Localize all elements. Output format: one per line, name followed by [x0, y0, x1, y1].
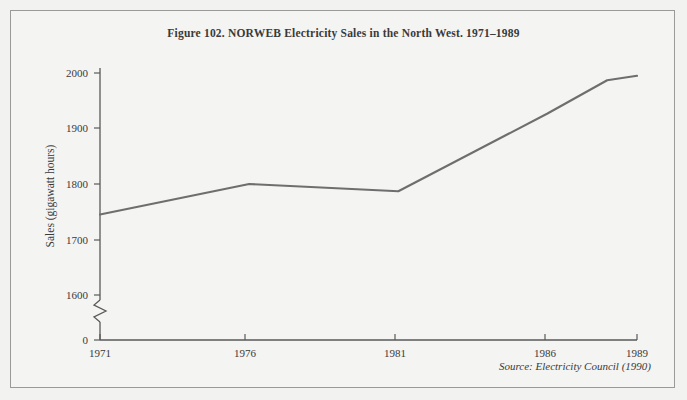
x-tick-label-1976: 1976	[234, 347, 257, 359]
x-tick-label-1986: 1986	[534, 347, 557, 359]
y-tick-label-1700: 1700	[66, 234, 89, 246]
y-tick-label-1800: 1800	[66, 178, 89, 190]
data-series-line	[100, 76, 637, 215]
figure-container: Figure 102. NORWEB Electricity Sales in …	[0, 0, 687, 400]
x-tick-label-1989: 1989	[626, 347, 649, 359]
line-chart-plot: 2000 1900 1800 1700 1600 0 1971 1976 198…	[0, 0, 687, 400]
y-axis-break-icon	[94, 300, 106, 322]
x-tick-label-1981: 1981	[384, 347, 406, 359]
y-tick-label-0: 0	[83, 334, 89, 346]
y-tick-label-2000: 2000	[66, 67, 89, 79]
source-note: Source: Electricity Council (1990)	[499, 360, 651, 372]
y-tick-label-1600: 1600	[66, 289, 89, 301]
x-tick-label-1971: 1971	[89, 347, 111, 359]
y-tick-label-1900: 1900	[66, 122, 89, 134]
